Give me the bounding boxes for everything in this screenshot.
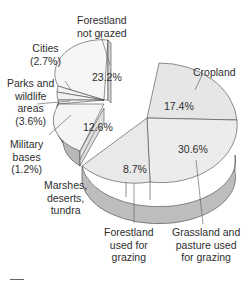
label-cropland: Cropland xyxy=(193,66,236,79)
pct-grassland: 30.6% xyxy=(178,143,208,155)
label-grassland: Grassland andpasture usedfor grazing xyxy=(172,226,240,264)
label-marshes: Marshes,deserts,tundra xyxy=(44,179,87,217)
bottom-mark xyxy=(10,279,24,280)
pct-forest-not-grazed: 23.2% xyxy=(92,71,122,83)
label-parks: Parks andwildlifeareas(3.6%) xyxy=(7,77,54,127)
label-military: Militarybases(1.2%) xyxy=(10,138,43,176)
label-forest-not-grazed: Forestlandnot grazed xyxy=(77,14,127,39)
pct-marshes: 12.6% xyxy=(83,121,113,133)
slice-military xyxy=(58,100,104,104)
label-cities: Cities(2.7%) xyxy=(30,42,61,67)
pct-cropland: 17.4% xyxy=(164,100,194,112)
label-forest-grazing: Forestlandused forgrazing xyxy=(104,226,154,264)
pct-forest-grazing: 8.7% xyxy=(123,163,147,175)
